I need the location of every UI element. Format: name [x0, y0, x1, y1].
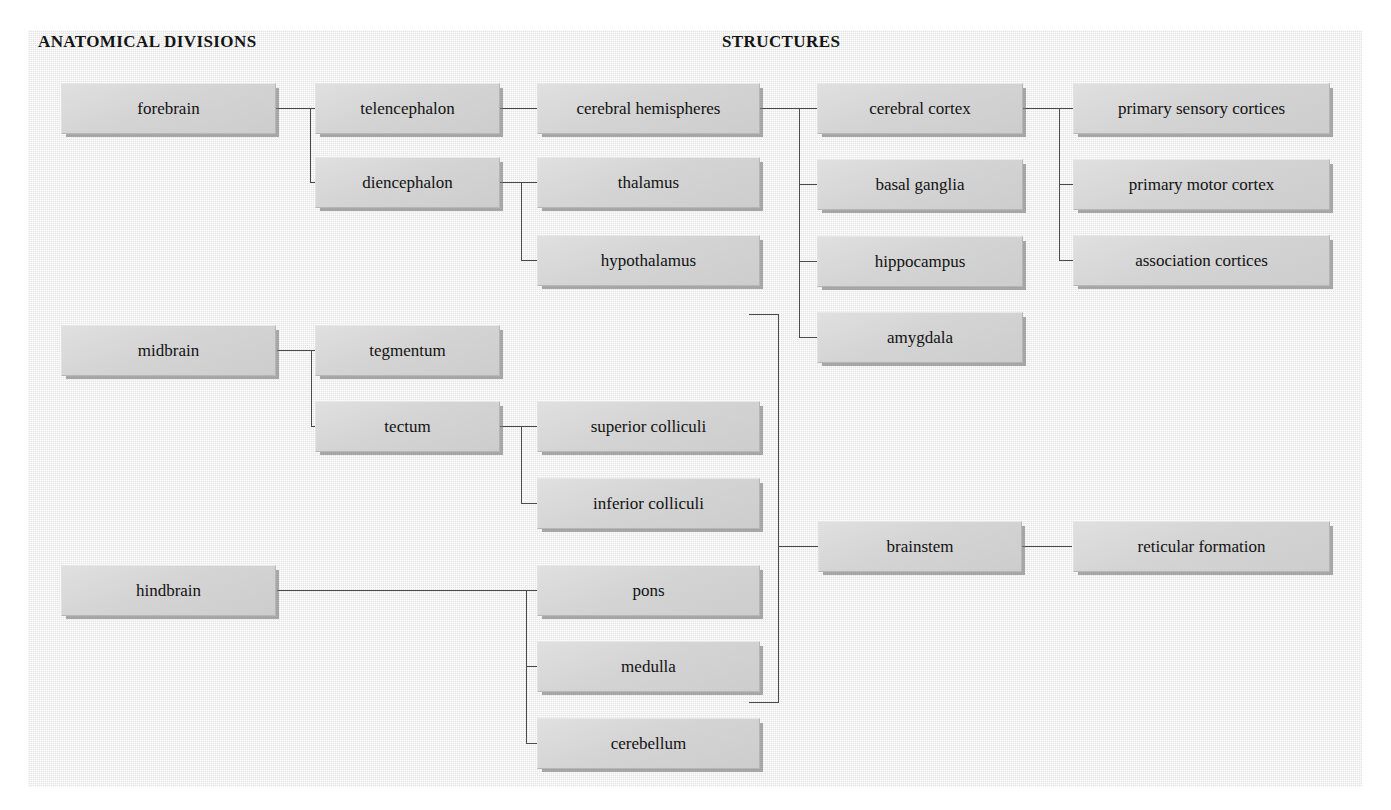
connector-hindbrain-stem: [277, 590, 527, 591]
node-basal-ganglia[interactable]: basal ganglia: [817, 159, 1023, 210]
connector-brainstem-to-reticular-formation: [1022, 546, 1072, 547]
node-label: thalamus: [618, 174, 679, 191]
node-telencephalon[interactable]: telencephalon: [315, 83, 500, 134]
node-label: hypothalamus: [601, 252, 696, 269]
node-label: medulla: [621, 658, 676, 675]
node-inferior-colliculi[interactable]: inferior colliculi: [537, 478, 760, 529]
node-hippocampus[interactable]: hippocampus: [817, 236, 1023, 287]
connector-diencephalon-stem: [500, 182, 522, 183]
node-reticular-formation[interactable]: reticular formation: [1073, 521, 1330, 572]
node-primary-motor-cortex[interactable]: primary motor cortex: [1073, 159, 1330, 210]
node-label: brainstem: [886, 538, 953, 555]
node-forebrain[interactable]: forebrain: [61, 83, 276, 134]
connector-tectum-bracket: [521, 426, 522, 503]
node-label: inferior colliculi: [593, 495, 704, 512]
node-label: hindbrain: [136, 582, 201, 599]
node-association-cortices[interactable]: association cortices: [1073, 235, 1330, 286]
connector-forebrain-bracket: [310, 108, 311, 182]
node-pons[interactable]: pons: [537, 565, 760, 616]
connector-hindbrain-to-pons: [526, 590, 537, 591]
connector-diencephalon-to-hypothalamus: [521, 260, 537, 261]
header-structures: STRUCTURES: [722, 32, 840, 52]
node-medulla[interactable]: medulla: [537, 641, 760, 692]
connector-cerebral-cortex-stem: [1023, 108, 1060, 109]
node-label: diencephalon: [362, 174, 453, 191]
connector-tectum-to-inferior-colliculi: [521, 503, 537, 504]
node-label: amygdala: [887, 329, 953, 346]
node-label: primary motor cortex: [1129, 176, 1274, 193]
node-diencephalon[interactable]: diencephalon: [315, 157, 500, 208]
connector-spine-top: [749, 314, 779, 315]
connector-forebrain-stem: [275, 108, 311, 109]
connector-ch-to-cerebral-cortex: [799, 108, 817, 109]
node-label: cerebral cortex: [869, 100, 970, 117]
connector-tectum-stem: [500, 426, 522, 427]
node-thalamus[interactable]: thalamus: [537, 157, 760, 208]
node-cerebral-hemispheres[interactable]: cerebral hemispheres: [537, 83, 760, 134]
node-label: tectum: [384, 418, 430, 435]
node-amygdala[interactable]: amygdala: [817, 312, 1023, 363]
node-hindbrain[interactable]: hindbrain: [61, 565, 276, 616]
connector-cc-to-primary-motor-cortex: [1059, 184, 1073, 185]
node-midbrain[interactable]: midbrain: [61, 325, 276, 376]
connector-midbrain-stem: [277, 350, 312, 351]
connector-telencephalon-to-cerebral-hemispheres: [500, 108, 537, 109]
node-label: primary sensory cortices: [1118, 100, 1285, 117]
connector-diencephalon-bracket: [521, 182, 522, 260]
connector-spine-to-medulla: [749, 702, 779, 703]
connector-spine-to-brainstem: [778, 546, 818, 547]
node-label: cerebellum: [611, 735, 687, 752]
connector-diencephalon-to-thalamus: [521, 182, 537, 183]
connector-hindbrain-to-cerebellum: [526, 743, 537, 744]
connector-hindbrain-to-medulla: [526, 666, 537, 667]
connector-tectum-to-superior-colliculi: [521, 426, 537, 427]
node-hypothalamus[interactable]: hypothalamus: [537, 235, 760, 286]
connector-cerebral-hemispheres-bracket: [799, 108, 800, 337]
node-brainstem[interactable]: brainstem: [818, 521, 1022, 572]
connector-spine-vertical: [778, 314, 779, 703]
node-primary-sensory-cortices[interactable]: primary sensory cortices: [1073, 83, 1330, 134]
node-label: basal ganglia: [875, 176, 964, 193]
node-label: forebrain: [137, 100, 199, 117]
node-label: reticular formation: [1138, 538, 1266, 555]
node-superior-colliculi[interactable]: superior colliculi: [537, 401, 760, 452]
node-tectum[interactable]: tectum: [315, 401, 500, 452]
node-label: association cortices: [1135, 252, 1268, 269]
node-label: pons: [632, 582, 664, 599]
connector-ch-to-basal-ganglia: [799, 184, 817, 185]
node-cerebellum[interactable]: cerebellum: [537, 718, 760, 769]
connector-cc-to-primary-sensory-cortices: [1059, 108, 1073, 109]
connector-ch-to-hippocampus: [799, 261, 817, 262]
node-label: telencephalon: [360, 100, 454, 117]
connector-cc-to-association-cortices: [1059, 260, 1073, 261]
connector-ch-to-amygdala: [799, 337, 817, 338]
node-label: hippocampus: [875, 253, 966, 270]
node-label: tegmentum: [369, 342, 445, 359]
diagram-page: ANATOMICAL DIVISIONS STRUCTURES: [0, 0, 1391, 810]
node-label: superior colliculi: [591, 418, 707, 435]
node-cerebral-cortex[interactable]: cerebral cortex: [817, 83, 1023, 134]
node-label: cerebral hemispheres: [577, 100, 721, 117]
connector-midbrain-bracket: [311, 350, 312, 426]
node-tegmentum[interactable]: tegmentum: [315, 325, 500, 376]
header-anatomical-divisions: ANATOMICAL DIVISIONS: [38, 32, 257, 52]
connector-cerebral-hemispheres-stem: [760, 108, 800, 109]
node-label: midbrain: [138, 342, 199, 359]
